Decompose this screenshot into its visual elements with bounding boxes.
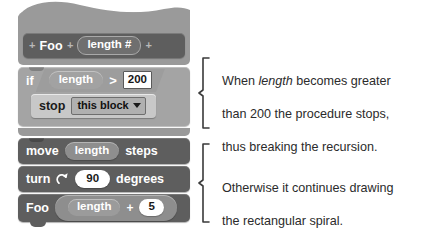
variable-length-reporter[interactable]: length xyxy=(65,142,120,161)
stack-connector xyxy=(18,128,190,136)
turn-units-label: degrees xyxy=(116,172,164,186)
turn-keyword-label: turn xyxy=(26,172,50,186)
block-bottom-nub xyxy=(30,221,46,227)
hat-top-curve xyxy=(18,1,190,25)
annotation-text-a: When xyxy=(222,74,258,88)
procedure-parameter-length[interactable]: length # xyxy=(77,36,141,54)
annotation-text-b: becomes greater xyxy=(293,74,391,88)
add-input-left-icon[interactable]: + xyxy=(29,40,35,51)
diagram-canvas: + Foo + length # + if length > 200 stop xyxy=(0,0,432,244)
move-units-label: steps xyxy=(125,144,158,158)
annotation-recursive-case: Otherwise it continues drawing the recta… xyxy=(222,163,430,244)
turn-degrees-input[interactable]: 90 xyxy=(75,170,110,189)
add-input-right-icon[interactable]: + xyxy=(145,40,151,51)
block-script: + Foo + length # + if length > 200 stop xyxy=(18,12,190,222)
addend-input-5[interactable]: 5 xyxy=(139,199,163,216)
annotation-recursive-case-line2: the rectangular spiral. xyxy=(222,213,430,230)
annotation-stop-case-line2: than 200 the procedure stops, xyxy=(222,106,430,123)
procedure-name-label: Foo xyxy=(39,39,63,53)
annotation-stop-case: When length becomes greater than 200 the… xyxy=(222,56,430,172)
if-block[interactable]: if length > 200 stop this block xyxy=(18,67,190,126)
annotation-recursive-case-line1: Otherwise it continues drawing xyxy=(222,180,430,197)
recursive-body-stack: move length steps turn 90 degrees Foo xyxy=(18,128,190,222)
stop-block[interactable]: stop this block xyxy=(31,94,156,118)
threshold-input-200[interactable]: 200 xyxy=(123,71,152,89)
move-block[interactable]: move length steps xyxy=(18,138,190,164)
add-input-middle-icon[interactable]: + xyxy=(67,40,73,51)
stop-keyword-label: stop xyxy=(39,99,65,113)
chevron-down-icon xyxy=(133,103,141,108)
brace-recursive-case-icon xyxy=(198,143,214,227)
addition-reporter[interactable]: length + 5 xyxy=(55,195,177,221)
brace-stop-case-icon xyxy=(198,57,214,133)
if-block-body: stop this block xyxy=(31,94,184,118)
stop-option-dropdown[interactable]: this block xyxy=(71,97,145,115)
if-block-header: if length > 200 xyxy=(18,67,190,94)
variable-length-reporter[interactable]: length xyxy=(68,199,121,216)
turn-block[interactable]: turn 90 degrees xyxy=(18,166,190,192)
turn-clockwise-icon xyxy=(56,171,69,188)
variable-length-reporter[interactable]: length xyxy=(49,71,104,90)
comparison-operator-label: > xyxy=(109,73,117,88)
stop-option-label: this block xyxy=(77,99,128,112)
block-notch xyxy=(29,138,44,142)
foo-call-name-label: Foo xyxy=(26,201,49,215)
if-keyword-label: if xyxy=(26,74,34,88)
hat-block-foo-definition[interactable]: + Foo + length # + xyxy=(18,12,190,65)
move-keyword-label: move xyxy=(26,144,59,158)
greater-than-predicate[interactable]: length > 200 xyxy=(36,69,165,93)
annotation-stop-case-line3: thus breaking the recursion. xyxy=(222,139,430,156)
annotation-stop-case-line1: When length becomes greater xyxy=(222,73,430,90)
annotation-emphasis-length: length xyxy=(258,74,292,88)
procedure-prototype[interactable]: + Foo + length # + xyxy=(23,33,185,58)
block-notch xyxy=(29,67,44,71)
foo-call-block[interactable]: Foo length + 5 xyxy=(18,194,190,222)
plus-operator-label: + xyxy=(126,202,133,214)
